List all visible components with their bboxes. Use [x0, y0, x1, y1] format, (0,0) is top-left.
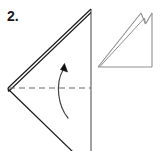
fold-direction-arrow [58, 64, 68, 119]
fold-arrow-curve [58, 70, 68, 118]
result-notch-right-side [146, 13, 153, 24]
large-folded-triangle [8, 9, 91, 151]
triangle-lower-edge [8, 89, 74, 151]
triangle-upper-edge-outer [8, 9, 91, 88]
diagram-drawing [0, 0, 160, 151]
result-hypotenuse-outer [98, 13, 141, 67]
small-result-triangle [98, 13, 152, 67]
triangle-upper-edge-inner [9, 13, 92, 92]
result-hypotenuse-inner [100, 18, 145, 67]
fold-arrow-head-icon [61, 64, 68, 73]
figure-canvas: 2. [0, 0, 160, 151]
